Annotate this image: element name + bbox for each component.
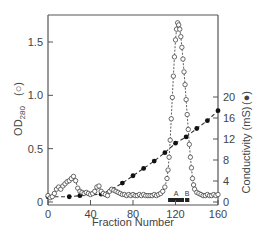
y-left-tick-label: 0 [37,196,43,208]
pool-bars: AB [168,190,190,202]
y-right-tick-label: 16 [223,112,235,124]
y-right-tick-label: 4 [223,175,229,187]
od280-point [165,176,169,180]
od280-point [171,74,175,78]
conductivity-point [67,194,72,199]
od280-point [166,168,170,172]
od-label-sub: 280 [18,106,27,120]
y-right-tick-label: 20 [223,91,235,103]
od280-point [188,155,192,159]
od280-point [97,184,101,188]
od280-point [187,142,191,146]
od280-point [161,189,165,193]
conductivity-point [141,166,146,171]
od280-point [168,138,172,142]
od280-point [73,178,77,182]
conductivity-point [120,181,125,186]
x-tick-label: 160 [209,208,227,220]
y-left-tick-label: 1.0 [28,89,43,101]
y-right-tick-label: 12 [223,133,235,145]
conductivity-point [173,141,178,146]
conductivity-label-main: Conductivity (mS) [240,107,252,194]
od280-point [184,97,188,101]
od280-point [170,95,174,99]
od280-point [189,166,193,170]
y-right-tick-label: 0 [223,196,229,208]
od280-point [105,193,109,197]
od280-point [169,117,173,121]
od280-point [173,38,177,42]
od280-point [167,155,171,159]
od280-point [71,174,75,178]
od280-point [179,34,183,38]
od280-point [163,185,167,189]
y-right-tick-label: 8 [223,154,229,166]
conductivity-point [131,173,136,178]
svg-text:OD280: OD280 [12,106,27,136]
y-left-tick-label: 0.5 [28,143,43,155]
y-left-tick-label: 1.5 [28,36,43,48]
pool-bar-b [185,198,189,202]
od280-point [185,112,189,116]
conductivity-label-marker: (●) [240,91,252,105]
od280-point [186,127,190,131]
y-axis-right: 048121620 [213,91,235,208]
x-tick-label: 0 [45,208,51,220]
conductivity-point [184,135,189,140]
od280-point [181,57,185,61]
od280-point [182,70,186,74]
conductivity-point [162,150,167,155]
od280-series [46,21,220,200]
conductivity-point [194,126,199,131]
od280-point [93,189,97,193]
conductivity-point [216,108,221,113]
od280-point [183,82,187,86]
od-label-marker: (○) [12,82,24,96]
od280-point [52,191,56,195]
od280-point [216,192,220,196]
y-axis-right-label: Conductivity (mS) (●) [240,91,252,193]
conductivity-point [205,118,210,123]
pool-bar-a [168,198,184,202]
chart: AB 04080120160 00.51.01.5 048121620 Frac… [0,0,261,236]
y-axis-left: 00.51.01.5 [28,36,53,208]
conductivity-point [152,159,157,164]
od-label-main: OD [12,119,24,136]
x-axis-label: Fraction Number [92,216,174,228]
od280-point [190,176,194,180]
od280-point [176,23,180,27]
od280-line [48,23,218,198]
od280-point [191,183,195,187]
od280-point [178,27,182,31]
pool-bar-label: A [174,190,179,197]
y-axis-left-label: OD280 (○) [12,82,27,136]
pool-bar-label: B [185,190,190,197]
od280-point [180,45,184,49]
od280-point [172,55,176,59]
